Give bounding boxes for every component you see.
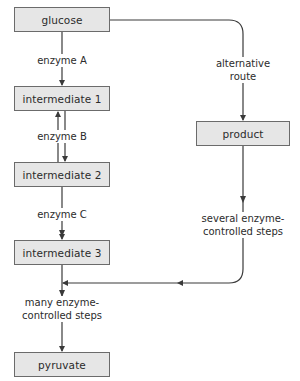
- node-product-label: product: [222, 128, 263, 140]
- label-alternative-route: alternative route: [215, 57, 271, 83]
- label-enzyme-b: enzyme B: [36, 130, 88, 143]
- node-intermediate-1: intermediate 1: [14, 86, 110, 111]
- node-pyruvate-label: pyruvate: [38, 359, 86, 371]
- label-many-steps: many enzyme- controlled steps: [21, 296, 103, 322]
- node-intermediate-3: intermediate 3: [14, 240, 110, 265]
- node-product: product: [196, 121, 290, 146]
- node-intermediate-2-label: intermediate 2: [23, 169, 102, 181]
- node-pyruvate: pyruvate: [14, 352, 110, 377]
- label-alternative-route-line1: alternative: [216, 57, 270, 70]
- node-intermediate-2: intermediate 2: [14, 162, 110, 187]
- metabolic-pathway-diagram: glucose intermediate 1 intermediate 2 in…: [0, 0, 300, 381]
- label-enzyme-c: enzyme C: [36, 208, 88, 221]
- arrowhead-product-line: [240, 196, 246, 203]
- node-intermediate-1-label: intermediate 1: [23, 93, 102, 105]
- label-alternative-route-line2: route: [216, 70, 270, 83]
- label-several-steps: several enzyme- controlled steps: [201, 212, 286, 238]
- node-glucose-label: glucose: [41, 14, 82, 26]
- label-several-steps-line2: controlled steps: [202, 225, 285, 238]
- node-glucose: glucose: [14, 7, 110, 32]
- node-intermediate-3-label: intermediate 3: [23, 247, 102, 259]
- label-many-steps-line2: controlled steps: [22, 309, 102, 322]
- label-many-steps-line1: many enzyme-: [22, 296, 102, 309]
- label-several-steps-line1: several enzyme-: [202, 212, 285, 225]
- arrowhead-enzyme-c: [59, 230, 65, 237]
- label-enzyme-a: enzyme A: [36, 54, 88, 67]
- arrowhead-return-line: [177, 280, 183, 286]
